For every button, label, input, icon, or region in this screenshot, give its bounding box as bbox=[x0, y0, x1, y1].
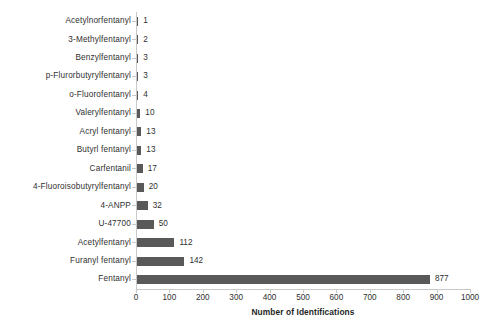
y-axis-tick bbox=[132, 131, 136, 132]
bar-row: Benzylfentanyl3 bbox=[0, 49, 485, 67]
bar-value-label: 112 bbox=[179, 239, 192, 247]
bar-container: 20 bbox=[137, 178, 158, 196]
y-axis-tick bbox=[132, 95, 136, 96]
bar-value-label: 3 bbox=[143, 72, 148, 80]
category-label: Furanyl fentanyl bbox=[0, 257, 131, 265]
category-label: Valerylfentanyl bbox=[0, 109, 131, 117]
y-axis-tick bbox=[132, 21, 136, 22]
bar[interactable] bbox=[137, 238, 174, 247]
x-axis-tick-label: 800 bbox=[396, 294, 410, 302]
y-axis-tick bbox=[132, 279, 136, 280]
bar-row: Fentanyl877 bbox=[0, 270, 485, 288]
bar-chart: Acetylnorfentanyl13-Methylfentanyl2Benzy… bbox=[0, 0, 485, 334]
bar-value-label: 20 bbox=[149, 183, 158, 191]
bar-value-label: 13 bbox=[146, 146, 155, 154]
x-axis-tick-label: 400 bbox=[263, 294, 277, 302]
bar-value-label: 877 bbox=[435, 275, 449, 283]
bar-value-label: 17 bbox=[148, 165, 157, 173]
bar[interactable] bbox=[137, 72, 138, 81]
bar-row: 4-ANPP32 bbox=[0, 197, 485, 215]
x-axis-title: Number of Identifications bbox=[136, 308, 470, 316]
bar[interactable] bbox=[137, 109, 140, 118]
bar[interactable] bbox=[137, 220, 154, 229]
category-label: Acetylfentanyl bbox=[0, 239, 131, 247]
bar-row: 3-Methylfentanyl2 bbox=[0, 30, 485, 48]
bar-value-label: 3 bbox=[143, 54, 148, 62]
bar[interactable] bbox=[137, 54, 138, 63]
bar-container: 13 bbox=[137, 123, 155, 141]
bar-row: U-4770050 bbox=[0, 215, 485, 233]
bar[interactable] bbox=[137, 257, 184, 266]
bar-row: Acetylnorfentanyl1 bbox=[0, 12, 485, 30]
bar-row: p-Flurorbutyrylfentanyl3 bbox=[0, 67, 485, 85]
bar-container: 2 bbox=[137, 30, 148, 48]
x-axis-tick-label: 900 bbox=[430, 294, 444, 302]
y-axis-tick bbox=[132, 242, 136, 243]
bar-container: 112 bbox=[137, 233, 192, 251]
bar-value-label: 2 bbox=[143, 36, 148, 44]
bar-container: 1 bbox=[137, 12, 148, 30]
x-axis-tick-label: 0 bbox=[134, 294, 139, 302]
bar-row: Acetylfentanyl112 bbox=[0, 233, 485, 251]
bar-row: Valerylfentanyl10 bbox=[0, 104, 485, 122]
x-axis-tick-label: 200 bbox=[196, 294, 210, 302]
category-label: Acetylnorfentanyl bbox=[0, 17, 131, 25]
bar-row: Furanyl fentanyl142 bbox=[0, 252, 485, 270]
y-axis-tick bbox=[132, 113, 136, 114]
bar-container: 3 bbox=[137, 49, 148, 67]
y-axis-tick bbox=[132, 224, 136, 225]
bar-value-label: 1 bbox=[143, 17, 148, 25]
bar-value-label: 10 bbox=[145, 109, 154, 117]
bar[interactable] bbox=[137, 183, 144, 192]
y-axis-tick bbox=[132, 58, 136, 59]
bar-container: 13 bbox=[137, 141, 155, 159]
x-axis-tick-label: 500 bbox=[296, 294, 310, 302]
category-label: o-Fluorofentanyl bbox=[0, 91, 131, 99]
bar-value-label: 13 bbox=[146, 128, 155, 136]
bar-container: 142 bbox=[137, 252, 203, 270]
bar-container: 4 bbox=[137, 86, 148, 104]
bar-container: 32 bbox=[137, 197, 162, 215]
bar[interactable] bbox=[137, 146, 141, 155]
bar-container: 877 bbox=[137, 270, 449, 288]
bar[interactable] bbox=[137, 17, 138, 26]
x-axis-tick-label: 100 bbox=[163, 294, 177, 302]
bar-row: 4-Fluoroisobutyrylfentanyl20 bbox=[0, 178, 485, 196]
y-axis-tick bbox=[132, 261, 136, 262]
x-axis-tick-label: 600 bbox=[330, 294, 344, 302]
bar-container: 3 bbox=[137, 67, 148, 85]
x-axis-tick-label: 300 bbox=[229, 294, 243, 302]
y-axis-tick bbox=[132, 187, 136, 188]
bar-row: Butyrl fentanyl13 bbox=[0, 141, 485, 159]
y-axis-tick bbox=[132, 205, 136, 206]
bar[interactable] bbox=[137, 35, 138, 44]
category-label: p-Flurorbutyrylfentanyl bbox=[0, 72, 131, 80]
category-label: 4-Fluoroisobutyrylfentanyl bbox=[0, 183, 131, 191]
category-label: Benzylfentanyl bbox=[0, 54, 131, 62]
bar-row: Acryl fentanyl13 bbox=[0, 123, 485, 141]
category-label: 3-Methylfentanyl bbox=[0, 36, 131, 44]
category-label: U-47700 bbox=[0, 220, 131, 228]
y-axis-tick bbox=[132, 39, 136, 40]
category-label: 4-ANPP bbox=[0, 202, 131, 210]
bar-value-label: 32 bbox=[153, 202, 162, 210]
x-axis-tick-label: 1000 bbox=[461, 294, 479, 302]
bar-row: Carfentanil17 bbox=[0, 160, 485, 178]
bar[interactable] bbox=[137, 91, 138, 100]
bar-value-label: 142 bbox=[189, 257, 203, 265]
bar-container: 50 bbox=[137, 215, 168, 233]
x-axis-tick-labels: 01002003004005006007008009001000 bbox=[136, 294, 470, 306]
bar-rows: Acetylnorfentanyl13-Methylfentanyl2Benzy… bbox=[0, 12, 485, 289]
bar-row: o-Fluorofentanyl4 bbox=[0, 86, 485, 104]
bar-value-label: 4 bbox=[143, 91, 148, 99]
x-axis-tick-label: 700 bbox=[363, 294, 377, 302]
category-label: Acryl fentanyl bbox=[0, 128, 131, 136]
bar[interactable] bbox=[137, 201, 148, 210]
category-label: Butyrl fentanyl bbox=[0, 146, 131, 154]
bar[interactable] bbox=[137, 127, 141, 136]
y-axis-tick bbox=[132, 168, 136, 169]
bar-value-label: 50 bbox=[159, 220, 168, 228]
category-label: Fentanyl bbox=[0, 275, 131, 283]
bar[interactable] bbox=[137, 164, 143, 173]
bar[interactable] bbox=[137, 275, 430, 284]
